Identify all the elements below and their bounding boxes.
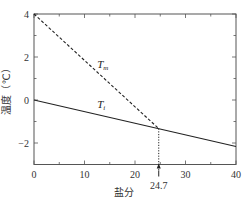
x-tick-label: 30 bbox=[181, 169, 191, 180]
series-t-m bbox=[34, 14, 159, 129]
chart: 010203040−2024TmTi24.7 盐分 温度（℃） bbox=[0, 0, 247, 204]
y-tick-label: 0 bbox=[24, 95, 29, 106]
x-tick-label: 40 bbox=[231, 169, 241, 180]
y-tick-label: 4 bbox=[24, 9, 29, 20]
y-tick-label: 2 bbox=[24, 52, 29, 63]
x-tick-label: 0 bbox=[32, 169, 37, 180]
annotation-label: 24.7 bbox=[150, 180, 168, 191]
y-tick-label: −2 bbox=[18, 138, 29, 149]
x-tick-label: 10 bbox=[80, 169, 90, 180]
series-label-t-i: Ti bbox=[97, 98, 105, 112]
y-axis-title: 温度（℃） bbox=[0, 63, 12, 114]
x-axis-title: 盐分 bbox=[114, 186, 134, 198]
series-label-t-m: Tm bbox=[97, 58, 108, 72]
x-tick-label: 20 bbox=[130, 169, 140, 180]
plot-frame bbox=[34, 14, 236, 165]
